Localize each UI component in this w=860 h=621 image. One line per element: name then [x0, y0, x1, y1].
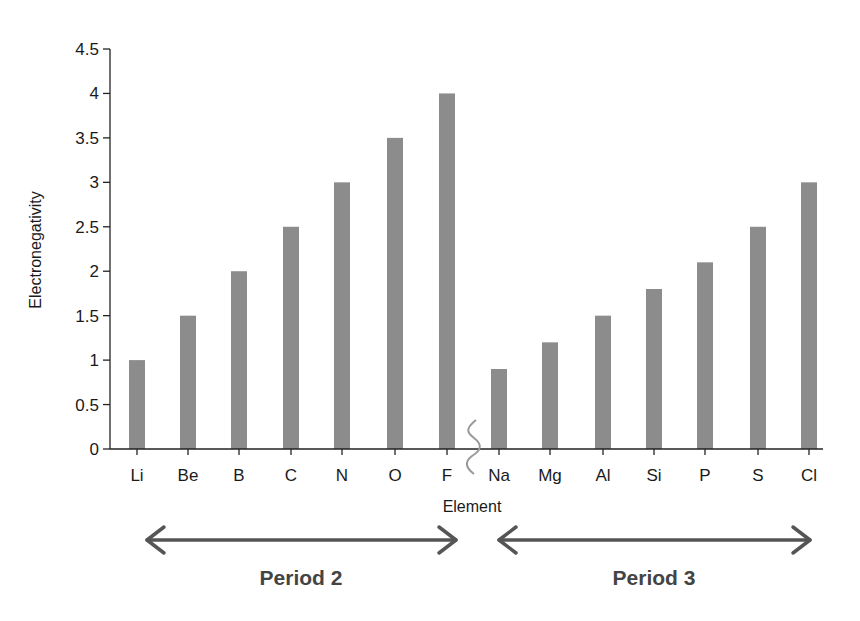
y-tick-label: 1.5: [75, 307, 99, 326]
bars-group: [129, 93, 817, 449]
y-tick-label: 3.5: [75, 129, 99, 148]
x-axis: LiBeBCNOFNaMgAlSiPSCl: [110, 449, 823, 485]
x-tick-label-na: Na: [488, 466, 510, 485]
bar-cl: [801, 182, 817, 449]
x-tick-label-n: N: [336, 466, 348, 485]
x-tick-label-s: S: [752, 466, 763, 485]
y-tick-label: 2.5: [75, 218, 99, 237]
x-tick-label-p: P: [699, 466, 710, 485]
bar-si: [646, 289, 662, 449]
bar-li: [129, 360, 145, 449]
x-tick-label-be: Be: [178, 466, 199, 485]
bar-b: [231, 271, 247, 449]
period-2-label: Period 2: [260, 566, 343, 589]
electronegativity-bar-chart: 00.511.522.533.544.5 LiBeBCNOFNaMgAlSiPS…: [0, 0, 860, 621]
bar-f: [439, 93, 455, 449]
x-tick-label-cl: Cl: [801, 466, 817, 485]
bar-c: [283, 227, 299, 449]
y-tick-label: 4.5: [75, 40, 99, 59]
period-2-arrow-icon: [147, 527, 456, 553]
bar-be: [180, 316, 196, 449]
bar-al: [595, 316, 611, 449]
bar-s: [750, 227, 766, 449]
bar-mg: [542, 342, 558, 449]
axis-break-icon: [467, 420, 480, 474]
x-tick-label-al: Al: [595, 466, 610, 485]
y-tick-label: 0: [90, 440, 99, 459]
y-tick-label: 1: [90, 351, 99, 370]
bar-o: [387, 138, 403, 449]
y-tick-label: 3: [90, 173, 99, 192]
x-tick-label-si: Si: [646, 466, 661, 485]
period-3-arrow-icon: [499, 527, 810, 553]
x-tick-label-mg: Mg: [538, 466, 562, 485]
x-tick-label-c: C: [285, 466, 297, 485]
y-tick-label: 4: [90, 84, 99, 103]
y-tick-label: 0.5: [75, 396, 99, 415]
x-axis-title: Element: [443, 498, 502, 515]
x-tick-label-li: Li: [130, 466, 143, 485]
y-tick-label: 2: [90, 262, 99, 281]
period-3-label: Period 3: [613, 566, 696, 589]
bar-n: [334, 182, 350, 449]
x-tick-label-o: O: [388, 466, 401, 485]
y-axis: 00.511.522.533.544.5: [75, 40, 110, 459]
y-axis-title: Electronegativity: [27, 191, 44, 308]
bar-p: [697, 262, 713, 449]
x-tick-label-f: F: [442, 466, 452, 485]
bar-na: [491, 369, 507, 449]
x-tick-label-b: B: [233, 466, 244, 485]
